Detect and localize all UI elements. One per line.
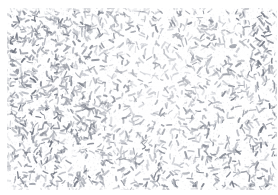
specimen-canvas xyxy=(0,0,278,195)
micrograph-viewer xyxy=(0,0,278,195)
specimen-field xyxy=(0,0,278,195)
